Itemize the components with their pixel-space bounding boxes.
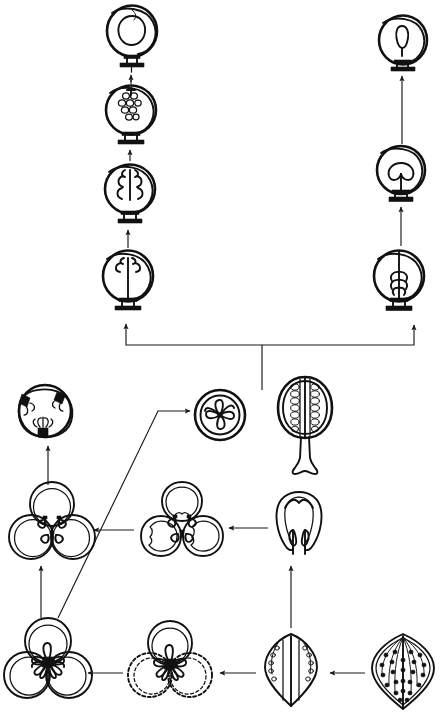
bracket-split-to-two-ovule-series [126,324,414,390]
ovule-with-single-embryo-sac [107,6,157,73]
laminar-fertile-leaf-with-scattered-ovules [372,634,434,709]
ovary-cross-section-with-free-central-placenta [195,390,245,440]
ovule-with-enlarged-cell-mass [105,165,155,224]
folded-leaf-carpel-with-marginal-ovules [265,634,317,706]
diagram-svg [0,0,441,722]
single-open-carpel-with-two-ovules [276,492,321,554]
tricarpellate-gynoecium-partly-fused [141,482,223,556]
botanical-diagram-canvas [0,0,441,722]
ovary-cross-section-with-three-placentae [19,385,73,437]
tricarpellate-gynoecium-with-crowded-ovules [4,618,92,698]
ovule-with-central-axis-and-crown [103,251,153,311]
tricarpellate-gynoecium-fused [9,482,95,559]
ovule-with-cellular-megagametophyte [106,86,156,145]
ovule-with-two-cotyledon-embryo [377,146,425,202]
fruit-longitudinal-section-with-stalk [278,377,332,474]
ovule-with-small-embryo [379,16,427,72]
tricarpellate-gynoecium-two-carpels-reduced [128,621,212,697]
arrow-bottom-trefoil-to-central-placenta-section [58,411,190,618]
ovule-with-axial-pinnate-structure [374,251,424,311]
